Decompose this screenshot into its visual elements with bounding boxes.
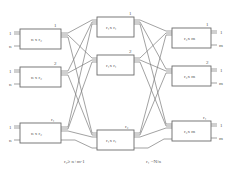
- middle-index: 2: [129, 49, 132, 54]
- input-label-1: 1: [9, 31, 12, 36]
- ingress-switch-2: 1 n n x r₂ 2: [9, 61, 61, 87]
- output-label-1: 1: [220, 123, 223, 128]
- egress-switch-2: r₂x m 2 1 m: [172, 60, 223, 86]
- egress-switch-1: r₂x m 1 1 m: [172, 22, 223, 48]
- output-label-m: m: [219, 81, 223, 86]
- egress-index: 1: [206, 22, 209, 27]
- ingress-box-label: n x r₂: [31, 75, 42, 80]
- egress-index: r₁: [203, 115, 207, 120]
- input-label-n: n: [9, 138, 12, 143]
- middle-index: r₂: [125, 124, 129, 129]
- ingress-index: 1: [54, 23, 57, 28]
- input-label-1: 1: [9, 69, 12, 74]
- clos-network-diagram: 1 n n x r₂ 1 1 n n x r₂ 2 1 n n x r₂ r₁ …: [0, 0, 236, 177]
- middle-box-label: r₁x r₁: [106, 25, 117, 30]
- middle-switch-r2: r₁x r₁ r₂: [97, 124, 134, 150]
- ingress-index: r₁: [51, 117, 55, 122]
- egress-box-label: r₂x m: [184, 74, 195, 79]
- middle-switch-2: r₁x r₁ 2: [97, 49, 134, 75]
- middle-box-label: r₁x r₁: [106, 138, 117, 143]
- egress-switch-r1: r₂x m r₁ 1 m: [172, 115, 223, 141]
- output-label-m: m: [219, 136, 223, 141]
- middle-count-annotation: r₂≥ n+m-1: [64, 159, 85, 164]
- input-label-1: 1: [9, 125, 12, 130]
- output-label-1: 1: [220, 30, 223, 35]
- egress-index: 2: [206, 60, 209, 65]
- ingress-to-middle-links: [61, 20, 97, 148]
- middle-index: 1: [129, 11, 132, 16]
- ingress-switch-r1: 1 n n x r₂ r₁: [9, 117, 61, 143]
- ingress-switch-1: 1 n n x r₂ 1: [9, 23, 61, 49]
- egress-box-label: r₂x m: [184, 129, 195, 134]
- outer-count-annotation: r₁ =N/n: [146, 159, 161, 164]
- middle-box-label: r₁x r₁: [106, 63, 117, 68]
- middle-to-egress-links: [134, 20, 172, 148]
- input-label-n: n: [9, 44, 12, 49]
- ingress-box-label: n x r₂: [31, 37, 42, 42]
- input-label-n: n: [9, 82, 12, 87]
- output-label-m: m: [219, 43, 223, 48]
- egress-box-label: r₂x m: [184, 36, 195, 41]
- ingress-box-label: n x r₂: [31, 131, 42, 136]
- output-label-1: 1: [220, 68, 223, 73]
- ingress-index: 2: [54, 61, 57, 66]
- middle-switch-1: r₁x r₁ 1: [97, 11, 134, 37]
